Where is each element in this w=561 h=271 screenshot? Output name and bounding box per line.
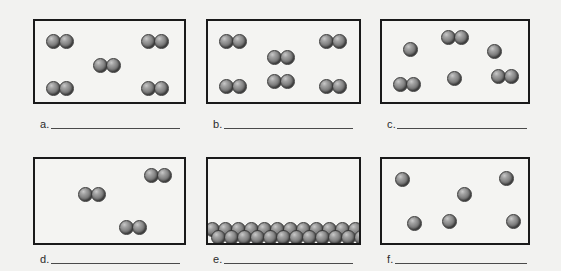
answer-label-row-e[interactable]: e. (213, 254, 353, 265)
single-atom (382, 159, 528, 243)
particle-panel-a (33, 19, 186, 104)
atom-sphere (332, 79, 347, 94)
particle-panel-f (380, 157, 530, 245)
container-box-e (206, 157, 361, 245)
answer-label-letter-f: f. (387, 254, 395, 265)
answer-label-row-c[interactable]: c. (387, 119, 527, 130)
answer-blank-line-f[interactable] (395, 263, 527, 264)
container-box-b (206, 19, 361, 104)
particle-field-c (382, 21, 528, 102)
diatomic-molecule (208, 21, 359, 102)
diatomic-molecule (35, 159, 184, 243)
answer-blank-line-a[interactable] (51, 128, 180, 129)
particle-panel-c (380, 19, 530, 104)
atom-sphere (154, 81, 169, 96)
particle-field-b (208, 21, 359, 102)
particle-field-a (35, 21, 184, 102)
answer-label-row-f[interactable]: f. (387, 254, 527, 265)
atom-sphere (354, 230, 362, 245)
atom-sphere (132, 220, 147, 235)
diatomic-molecule (382, 21, 528, 102)
particle-field-e (208, 159, 359, 243)
atom-sphere (506, 214, 521, 229)
particle-panel-b (206, 19, 361, 104)
container-box-f (380, 157, 530, 245)
particle-field-d (35, 159, 184, 243)
answer-label-letter-b: b. (213, 119, 224, 130)
atom-sphere (504, 69, 519, 84)
answer-label-letter-c: c. (387, 119, 397, 130)
container-box-d (33, 157, 186, 245)
answer-blank-line-d[interactable] (51, 263, 180, 264)
answer-blank-line-c[interactable] (397, 128, 527, 129)
answer-label-row-a[interactable]: a. (40, 119, 180, 130)
answer-label-letter-e: e. (213, 254, 224, 265)
answer-label-letter-a: a. (40, 119, 51, 130)
answer-label-letter-d: d. (40, 254, 51, 265)
container-box-a (33, 19, 186, 104)
particle-panel-d (33, 157, 186, 245)
answer-label-row-b[interactable]: b. (213, 119, 353, 130)
answer-label-row-d[interactable]: d. (40, 254, 180, 265)
container-box-c (380, 19, 530, 104)
packed-atom-row (208, 159, 359, 243)
answer-blank-line-b[interactable] (224, 128, 353, 129)
particle-panel-e (206, 157, 361, 245)
particle-diagram-worksheet: a.b.c.d.e.f. (0, 0, 561, 271)
particle-field-f (382, 159, 528, 243)
diatomic-molecule (35, 21, 184, 102)
answer-blank-line-e[interactable] (224, 263, 353, 264)
